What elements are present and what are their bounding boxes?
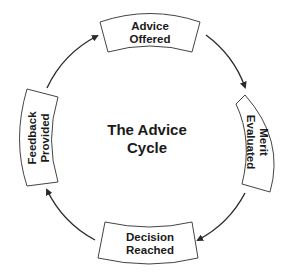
arrow-left-to-top: [47, 36, 97, 88]
diagram-title-line1: The Advice: [107, 121, 186, 138]
stage-label-line2: Evaluated: [245, 115, 257, 169]
stage-advice-offered: Advice Offered: [100, 14, 200, 53]
stage-feedback-provided: Feedback Provided: [20, 89, 59, 186]
stage-label-line1: Advice: [131, 20, 169, 32]
diagram-title-line2: Cycle: [127, 139, 167, 156]
stage-label-line1: Decision: [126, 231, 174, 243]
stage-label-line2: Reached: [126, 244, 174, 256]
stage-label-line2: Provided: [39, 113, 51, 162]
stage-label-line1: Feedback: [26, 111, 38, 165]
arrow-bottom-to-left: [47, 190, 95, 240]
arrow-top-to-right: [206, 35, 245, 87]
stage-box: [98, 222, 198, 264]
stage-label-line2: Offered: [130, 33, 171, 45]
stage-decision-reached: Decision Reached: [98, 222, 198, 264]
advice-cycle-diagram: Advice Offered Merit Evaluated Decision …: [0, 0, 290, 272]
stage-merit-evaluated: Merit Evaluated: [236, 95, 274, 192]
arrow-right-to-bottom: [198, 193, 245, 240]
stage-label-line1: Merit: [258, 128, 270, 156]
